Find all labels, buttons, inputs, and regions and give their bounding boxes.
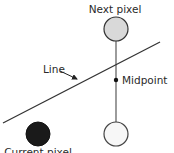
lower-candidate-pixel-circle [104,122,128,146]
midpoint-label: Midpoint [122,74,167,86]
current-pixel-circle [26,122,50,146]
line-label: Line [43,63,65,75]
next-pixel-circle [104,17,128,41]
current-pixel-label: Current pixel [4,146,72,153]
midpoint-dot [114,78,118,82]
midpoint-algorithm-diagram: Next pixel Midpoint Line Current pixel [0,0,174,153]
next-pixel-label: Next pixel [89,3,142,15]
